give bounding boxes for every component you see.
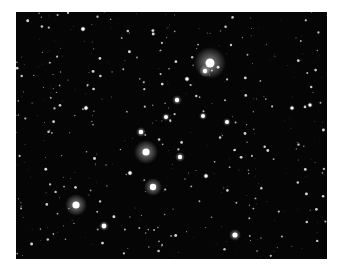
star (232, 232, 237, 237)
star (175, 98, 179, 102)
star (201, 114, 205, 118)
star (203, 69, 207, 73)
star (142, 148, 149, 155)
star (164, 115, 168, 119)
star (72, 201, 79, 208)
star (185, 77, 188, 80)
star (150, 184, 156, 190)
star (128, 171, 131, 174)
star (139, 130, 144, 135)
star-cluster-image (16, 12, 327, 259)
star (84, 106, 87, 109)
star (102, 224, 107, 229)
star (308, 103, 311, 106)
star (204, 174, 207, 177)
star (225, 120, 229, 124)
star-field-photo (16, 12, 327, 259)
star (178, 155, 182, 159)
star (81, 27, 85, 31)
star (290, 106, 293, 109)
